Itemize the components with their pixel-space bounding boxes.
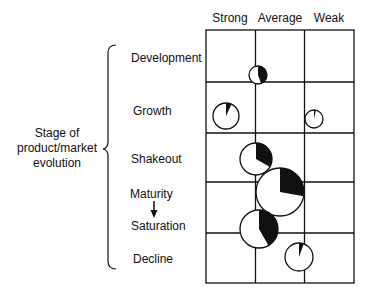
bubble-maturity-average: [256, 168, 304, 216]
down-arrow-icon: [151, 201, 158, 218]
pie-wedge: [280, 168, 304, 196]
bubble-growth-weak: [305, 110, 323, 128]
bubble-growth-strong: [213, 103, 239, 129]
diagram-canvas: [0, 0, 374, 295]
brace-icon: [103, 45, 116, 269]
bubbles-layer: [213, 66, 323, 271]
bubble-shakeout-average: [240, 143, 272, 175]
matrix-grid: [206, 30, 354, 283]
bubble-decline-weak: [285, 243, 313, 271]
bubble-saturation-average: [240, 210, 278, 248]
bubble-development-average: [249, 66, 267, 84]
